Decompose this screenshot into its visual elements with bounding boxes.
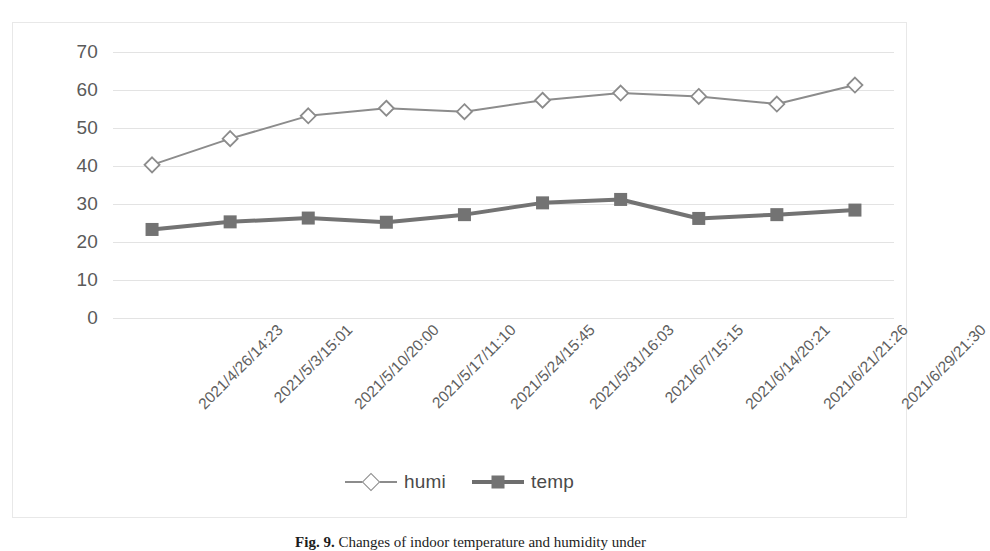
chart-area: 010203040506070 2021/4/26/14:232021/5/3/…	[13, 23, 906, 517]
legend-marker-humi	[345, 474, 397, 490]
data-point-temp[interactable]	[302, 212, 315, 225]
data-point-temp[interactable]	[692, 212, 705, 225]
y-axis: 010203040506070	[53, 52, 108, 318]
x-axis-tick-label: 2021/5/31/16:03	[585, 321, 677, 413]
data-point-humi[interactable]	[535, 93, 550, 108]
data-point-humi[interactable]	[457, 104, 472, 119]
legend-marker-temp	[472, 474, 524, 490]
y-axis-tick-label: 40	[76, 155, 98, 177]
y-axis-tick-label: 70	[76, 41, 98, 63]
data-point-temp[interactable]	[614, 193, 627, 206]
chart-legend: humi temp	[13, 471, 906, 493]
data-point-humi[interactable]	[691, 89, 706, 104]
data-point-temp[interactable]	[146, 223, 159, 236]
legend-label-temp: temp	[531, 471, 574, 493]
open-diamond-icon	[362, 473, 380, 491]
data-point-humi[interactable]	[301, 108, 316, 123]
y-axis-tick-label: 60	[76, 79, 98, 101]
x-axis: 2021/4/26/14:232021/5/3/15:012021/5/10/2…	[113, 321, 894, 461]
caption-figure-number: Fig. 9.	[295, 534, 335, 550]
data-point-temp[interactable]	[848, 204, 861, 217]
y-axis-tick-label: 30	[76, 193, 98, 215]
series-layer	[113, 52, 894, 318]
data-point-temp[interactable]	[536, 196, 549, 209]
series-line-humi	[152, 85, 855, 165]
x-axis-tick-label: 2021/6/29/21:30	[898, 321, 990, 413]
y-axis-tick-label: 0	[87, 307, 98, 329]
data-point-humi[interactable]	[613, 86, 628, 101]
data-point-humi[interactable]	[145, 157, 160, 172]
figure-frame: 010203040506070 2021/4/26/14:232021/5/3/…	[12, 22, 907, 518]
data-point-humi[interactable]	[223, 131, 238, 146]
figure-caption: Fig. 9. Changes of indoor temperature an…	[0, 534, 941, 551]
legend-item-temp[interactable]: temp	[472, 471, 574, 493]
caption-text: Changes of indoor temperature and humidi…	[338, 534, 645, 550]
filled-square-icon	[491, 476, 504, 489]
data-point-temp[interactable]	[770, 208, 783, 221]
data-point-humi[interactable]	[379, 101, 394, 116]
y-axis-tick-label: 20	[76, 231, 98, 253]
data-point-temp[interactable]	[224, 215, 237, 228]
data-point-humi[interactable]	[769, 97, 784, 112]
data-point-temp[interactable]	[458, 208, 471, 221]
data-point-temp[interactable]	[380, 216, 393, 229]
y-axis-tick-label: 50	[76, 117, 98, 139]
x-axis-tick-label: 2021/4/26/14:23	[195, 321, 287, 413]
series-line-temp	[152, 199, 855, 229]
legend-item-humi[interactable]: humi	[345, 471, 446, 493]
y-axis-tick-label: 10	[76, 269, 98, 291]
gridline	[113, 318, 894, 319]
x-axis-tick-label: 2021/5/17/11:10	[429, 321, 520, 412]
data-point-humi[interactable]	[847, 78, 862, 93]
legend-label-humi: humi	[404, 471, 446, 493]
